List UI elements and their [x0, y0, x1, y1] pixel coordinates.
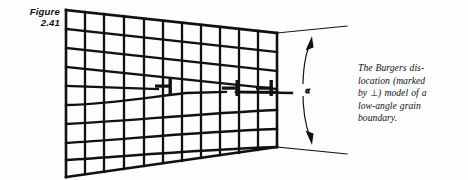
figure-caption: The Burgers dis- location (marked by ⊥) …	[358, 62, 466, 125]
dislocation-stem	[222, 87, 237, 90]
caption-line-3-pre: by	[358, 87, 367, 98]
dislocation-stem	[256, 87, 271, 90]
extension-line-top	[277, 26, 347, 33]
angle-arrowhead-top	[306, 36, 314, 51]
angle-arc-group: α	[302, 36, 314, 145]
boundary-top-edge	[66, 10, 277, 33]
lattice-hline-curved	[66, 147, 277, 160]
extension-line-bottom	[277, 147, 347, 154]
angle-arrowhead-bottom	[306, 131, 314, 146]
lattice-hline-curved	[66, 129, 277, 143]
caption-line-3: by ⊥) model of a	[358, 87, 466, 100]
boundary-bottom-edge	[66, 147, 277, 177]
caption-line-2: location (marked	[358, 75, 466, 88]
dislocation-bar	[236, 80, 239, 96]
caption-line-3-post: ) model of a	[378, 87, 427, 98]
caption-line-4: low-angle grain	[358, 100, 466, 113]
figure-root: Figure 2.41	[0, 0, 468, 180]
lattice-grid: α	[66, 10, 347, 177]
lattice-hline	[66, 29, 277, 52]
caption-line-5: boundary.	[358, 112, 466, 125]
dislocation-bar	[169, 78, 172, 94]
lattice-hline	[66, 48, 277, 71]
dislocation-bar	[270, 80, 273, 96]
dislocation-stem	[155, 85, 170, 88]
caption-line-1: The Burgers dis-	[358, 62, 466, 75]
perpendicular-symbol-icon: ⊥	[370, 88, 378, 98]
lattice-hline-curved	[66, 110, 277, 124]
